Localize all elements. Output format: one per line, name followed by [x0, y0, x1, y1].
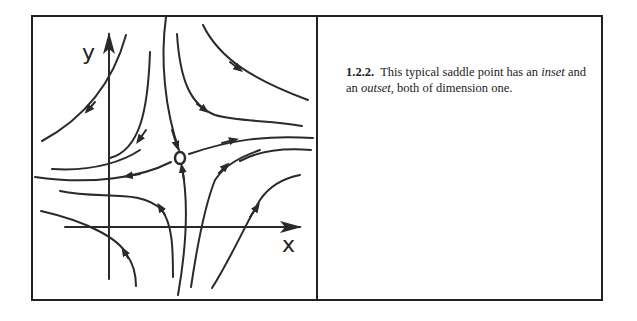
saddle-point-marker [175, 152, 185, 164]
caption-italic-inset: inset [541, 65, 565, 79]
y-axis-label: y [82, 40, 95, 65]
figure-caption: 1.2.2.This typical saddle point has an i… [346, 65, 586, 96]
flow-arrow [250, 207, 257, 217]
inset-bottom-arrow [182, 168, 184, 180]
x-axis-label: x [282, 232, 295, 257]
flow-curve [110, 52, 150, 158]
flow-curve [41, 211, 136, 286]
figure-number: 1.2.2. [346, 65, 374, 79]
flow-curve [60, 191, 173, 277]
flow-arrow [139, 130, 146, 140]
flow-arrow [197, 104, 205, 110]
phase-portrait: y x [0, 0, 637, 321]
inset-bottom-curve [178, 167, 186, 295]
flow-curve [240, 149, 311, 161]
outset-left-arrow [128, 174, 140, 176]
caption-text-1: This typical saddle point has an [380, 65, 538, 79]
flow-curve [52, 150, 140, 169]
flow-arrow [160, 207, 165, 215]
caption-italic-outset: outset, [361, 81, 394, 95]
flow-curve [177, 34, 302, 126]
caption-text-3: both of dimension one. [394, 81, 512, 95]
outset-right-curve [189, 137, 313, 154]
flow-curve [203, 25, 308, 100]
